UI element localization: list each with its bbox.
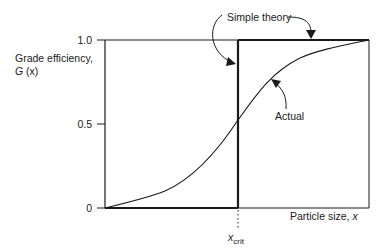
grade-efficiency-diagram: 1.0 0.5 0 Grade efficiency, G (x) Simple… [0,0,382,251]
simple-theory-arrow-right [288,17,311,36]
y-axis-title-var: G (x) [15,65,38,77]
tick-label-0: 0 [62,202,92,214]
actual-label: Actual [275,110,304,122]
y-axis-title: Grade efficiency, [15,52,93,64]
x-axis-title: Particle size, x [290,210,358,222]
y-axis-arg: (x) [26,65,38,77]
simple-theory-label: Simple theory [227,11,291,23]
x-axis-var: x [352,210,357,222]
y-axis-title-line1: Grade efficiency, [15,52,93,64]
y-axis-var: G [15,65,23,77]
x-axis-title-text: Particle size, [290,210,350,222]
x-crit-subscript: crit [233,237,244,246]
tick-label-0-5: 0.5 [62,118,92,130]
arrowhead-icon [306,30,316,39]
arrowhead-icon [226,57,236,66]
x-crit-label: xcrit [228,231,244,248]
tick-label-1-0: 1.0 [62,34,92,46]
